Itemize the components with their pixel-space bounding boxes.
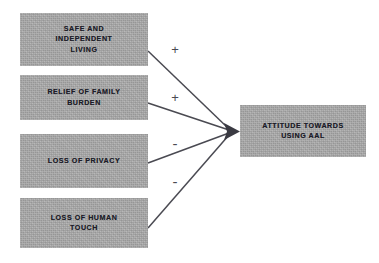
connector-safe-independent-living (148, 51, 229, 129)
relationship-sign-safe-independent-living: + (168, 43, 182, 56)
connector-loss-human-touch (148, 135, 229, 228)
concept-box-label: LOSS OF PRIVACY (48, 156, 120, 166)
concept-box-label: SAFE AND INDEPENDENT LIVING (56, 24, 113, 55)
concept-box-safe-independent-living[interactable]: SAFE AND INDEPENDENT LIVING (20, 13, 148, 66)
concept-box-label: LOSS OF HUMAN TOUCH (51, 213, 118, 234)
concept-diagram: SAFE AND INDEPENDENT LIVING RELIEF OF FA… (0, 0, 379, 263)
relationship-sign-loss-privacy: - (168, 136, 182, 151)
arrowhead-icon (224, 123, 240, 140)
concept-box-attitude-towards-aal[interactable]: ATTITUDE TOWARDS USING AAL (240, 105, 366, 157)
concept-box-relief-family-burden[interactable]: RELIEF OF FAMILY BURDEN (20, 75, 148, 120)
concept-box-label: ATTITUDE TOWARDS USING AAL (262, 121, 343, 142)
concept-box-loss-human-touch[interactable]: LOSS OF HUMAN TOUCH (20, 198, 148, 248)
relationship-sign-loss-human-touch: - (168, 174, 182, 189)
concept-box-label: RELIEF OF FAMILY BURDEN (47, 87, 120, 108)
concept-box-loss-privacy[interactable]: LOSS OF PRIVACY (20, 134, 148, 188)
relationship-sign-relief-family-burden: + (168, 91, 182, 104)
